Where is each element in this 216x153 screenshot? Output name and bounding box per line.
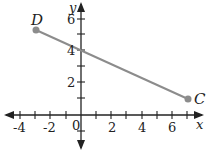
origin-label: 0 (72, 119, 80, 132)
x-axis-label: x (196, 118, 203, 131)
point-c (185, 96, 192, 103)
y-tick-2: 2 (67, 76, 75, 89)
segment-dc (36, 30, 188, 99)
y-tick-6: 6 (67, 13, 75, 26)
x-tick-neg2: -2 (43, 121, 56, 134)
x-axis-left-arrow-icon (4, 111, 14, 119)
y-axis-down-arrow-icon (77, 140, 85, 150)
x-tick-6: 6 (168, 121, 176, 134)
y-tick-4: 4 (67, 44, 75, 57)
point-d-label: D (31, 13, 43, 28)
x-tick-4: 4 (138, 121, 146, 134)
point-c-label: C (194, 92, 205, 107)
x-tick-neg4: -4 (13, 121, 26, 134)
x-tick-2: 2 (108, 121, 116, 134)
y-axis-up-arrow-icon (77, 2, 85, 12)
